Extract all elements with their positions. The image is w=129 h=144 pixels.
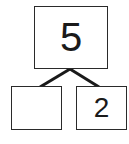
whole-value: 5 <box>60 15 82 60</box>
part-box-right: 2 <box>76 86 127 130</box>
part-box-left[interactable] <box>11 86 62 130</box>
whole-box: 5 <box>34 6 108 69</box>
part-value-right: 2 <box>94 92 110 124</box>
right-connector <box>70 69 99 87</box>
left-connector <box>40 69 70 87</box>
